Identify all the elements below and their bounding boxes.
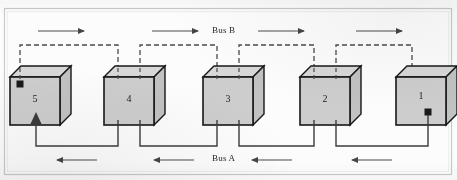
node-1-front-face	[396, 77, 446, 125]
node-label-1: 1	[396, 90, 446, 101]
node-4-side-face	[154, 66, 165, 125]
node-label-4: 4	[104, 93, 154, 104]
node-2-side-face	[350, 66, 361, 125]
node-1-side-face	[446, 66, 457, 125]
node-3-side-face	[253, 66, 264, 125]
node-label-5: 5	[10, 93, 60, 104]
diagram-canvas: 5 4 3 2 1 Bus B Bus A	[0, 0, 457, 180]
node-5-side-face	[60, 66, 71, 125]
node-1-bus-a-port-marker	[425, 109, 432, 116]
node-label-3: 3	[203, 93, 253, 104]
node-label-2: 2	[300, 93, 350, 104]
bus-b-label: Bus B	[210, 25, 237, 35]
bus-a-label: Bus A	[210, 153, 237, 163]
node-5-bus-b-port-marker	[17, 81, 24, 88]
